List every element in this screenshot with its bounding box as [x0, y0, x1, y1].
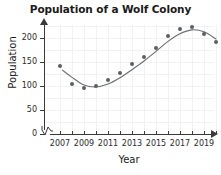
x-axis-tick [192, 131, 193, 134]
wolf-population-chart: Population of a Wolf Colony 050100150200… [0, 0, 221, 175]
plot-area [44, 25, 214, 135]
y-axis-arrow-icon [40, 18, 48, 25]
data-point [94, 84, 98, 88]
data-point [154, 46, 158, 50]
y-axis-tick-label: 0 [0, 129, 37, 138]
x-axis-tick [84, 131, 85, 135]
x-axis-tick [204, 131, 205, 135]
y-axis-tick [40, 134, 45, 135]
x-axis-tick [60, 131, 61, 135]
x-axis-tick [144, 131, 145, 134]
data-point [118, 71, 122, 75]
x-axis-tick [120, 131, 121, 134]
data-point [214, 40, 218, 44]
x-axis-tick-label: 2019 [189, 139, 219, 148]
y-axis-tick [40, 38, 45, 39]
x-axis-tick [168, 131, 169, 134]
x-axis-tick [180, 131, 181, 135]
x-axis-tick [156, 131, 157, 135]
y-axis-tick [40, 62, 45, 63]
trend-curve [44, 25, 214, 135]
x-axis-title: Year [44, 154, 214, 165]
data-point [70, 82, 74, 86]
data-point [58, 64, 62, 68]
x-axis-tick [72, 131, 73, 134]
chart-title: Population of a Wolf Colony [0, 3, 221, 15]
x-axis-tick [216, 131, 217, 134]
y-axis-title: Population [7, 18, 18, 108]
x-axis-tick [96, 131, 97, 134]
data-point [166, 34, 170, 38]
y-axis-tick [40, 110, 45, 111]
y-axis-tick [40, 86, 45, 87]
data-point [82, 86, 86, 90]
y-axis-line [44, 24, 45, 130]
x-axis-tick [132, 131, 133, 135]
x-axis-tick [108, 131, 109, 135]
